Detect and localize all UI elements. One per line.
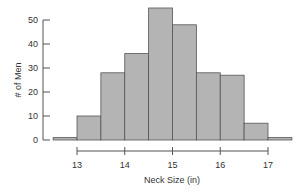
histogram-bar (77, 116, 101, 140)
histogram-bar (125, 54, 149, 140)
x-tick-label: 17 (263, 160, 273, 170)
x-tick-label: 14 (120, 160, 130, 170)
x-tick-label: 13 (72, 160, 82, 170)
histogram-bar (101, 73, 125, 140)
histogram-bar (196, 73, 220, 140)
x-axis: 1314151617 (72, 147, 273, 170)
histogram-bar (149, 8, 173, 140)
histogram-bar (173, 25, 197, 140)
x-tick-label: 15 (167, 160, 177, 170)
y-tick-label: 20 (28, 87, 38, 97)
x-tick-label: 16 (215, 160, 225, 170)
y-tick-label: 40 (28, 39, 38, 49)
histogram-bar (244, 123, 268, 140)
y-tick-label: 0 (33, 135, 38, 145)
y-tick-label: 30 (28, 63, 38, 73)
histogram-chart: 01020304050 1314151617 # of Men Neck Siz… (0, 0, 306, 193)
y-tick-label: 50 (28, 15, 38, 25)
histogram-bar (220, 75, 244, 140)
y-axis: 01020304050 (28, 15, 50, 145)
y-axis-title: # of Men (13, 62, 23, 97)
histogram-bar (53, 138, 77, 140)
bars (53, 8, 292, 140)
histogram-bar (268, 138, 292, 140)
x-axis-title: Neck Size (in) (144, 175, 200, 185)
y-tick-label: 10 (28, 111, 38, 121)
